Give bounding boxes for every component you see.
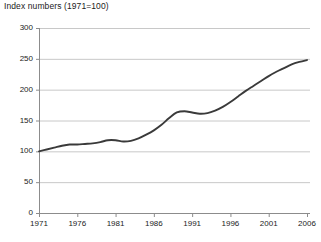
line-chart-plot: [0, 0, 321, 242]
y-axis-ticks: [36, 29, 39, 214]
gridlines: [39, 29, 310, 183]
data-series-line: [39, 60, 307, 151]
chart-figure: Index numbers (1971=100) 050100150200250…: [0, 0, 321, 242]
